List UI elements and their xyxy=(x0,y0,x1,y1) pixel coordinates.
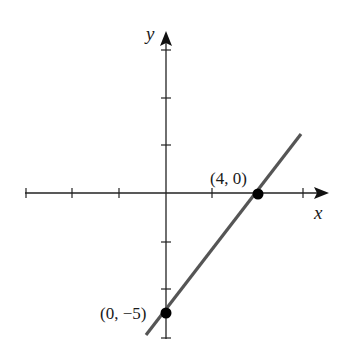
point-a-label: (4, 0) xyxy=(210,169,247,188)
y-axis-label: y xyxy=(144,23,155,44)
plotted-line xyxy=(146,134,301,335)
graph: y x (4, 0) (0, −5) xyxy=(0,0,342,357)
point-4-0 xyxy=(253,189,264,200)
point-0-neg5 xyxy=(161,308,172,319)
coordinate-plane: y x (4, 0) (0, −5) xyxy=(0,0,342,357)
y-axis xyxy=(160,31,172,339)
x-axis xyxy=(25,187,329,199)
x-axis-label: x xyxy=(313,202,323,223)
point-b-label: (0, −5) xyxy=(100,304,146,323)
